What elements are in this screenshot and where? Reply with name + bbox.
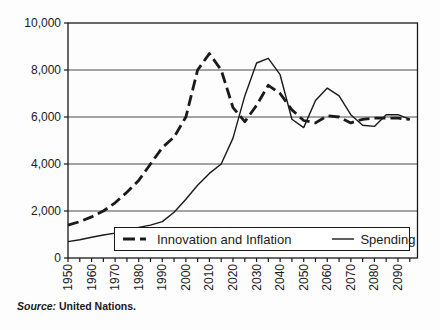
x-axis-label: 2000 — [179, 264, 193, 291]
innovation-and-inflation-line — [68, 54, 410, 226]
chart-legend: Innovation and Inflation Spending — [114, 227, 410, 251]
y-axis-label: 0 — [54, 251, 61, 265]
legend-item-spending: Spending — [331, 232, 415, 247]
spending-line — [68, 58, 410, 241]
dashed-line-sample-icon — [122, 235, 152, 243]
x-axis-label: 1970 — [108, 264, 122, 291]
x-axis-label: 1960 — [85, 264, 99, 291]
x-axis-label: 1980 — [132, 264, 146, 291]
x-axis-label: 2030 — [250, 264, 264, 291]
legend-label-spending: Spending — [360, 232, 415, 247]
x-axis-label: 2020 — [226, 264, 240, 291]
x-axis-label: 2040 — [273, 264, 287, 291]
source-prefix: Source: — [17, 300, 56, 312]
y-axis-label: 8,000 — [31, 63, 61, 77]
x-axis-label: 1990 — [155, 264, 169, 291]
solid-line-sample-icon — [331, 235, 355, 243]
plot-border — [68, 23, 418, 258]
x-axis-label: 2010 — [202, 264, 216, 291]
x-axis-label: 2070 — [344, 264, 358, 291]
chart-figure: 02,0004,0006,0008,00010,0001950196019701… — [0, 0, 440, 330]
line-chart-plot: 02,0004,0006,0008,00010,0001950196019701… — [0, 0, 440, 330]
y-axis-label: 6,000 — [31, 110, 61, 124]
legend-label-innovation-and-inflation: Innovation and Inflation — [157, 232, 291, 247]
x-axis-label: 2090 — [391, 264, 405, 291]
y-axis-label: 2,000 — [31, 204, 61, 218]
y-axis-label: 4,000 — [31, 157, 61, 171]
y-axis-label: 10,000 — [24, 16, 61, 30]
x-axis-label: 1950 — [61, 264, 75, 291]
x-axis-label: 2060 — [320, 264, 334, 291]
source-text: United Nations. — [56, 300, 136, 312]
x-axis-label: 2080 — [367, 264, 381, 291]
x-axis-label: 2050 — [297, 264, 311, 291]
legend-item-innovation-and-inflation: Innovation and Inflation — [122, 232, 291, 247]
source-note: Source: United Nations. — [17, 300, 136, 312]
